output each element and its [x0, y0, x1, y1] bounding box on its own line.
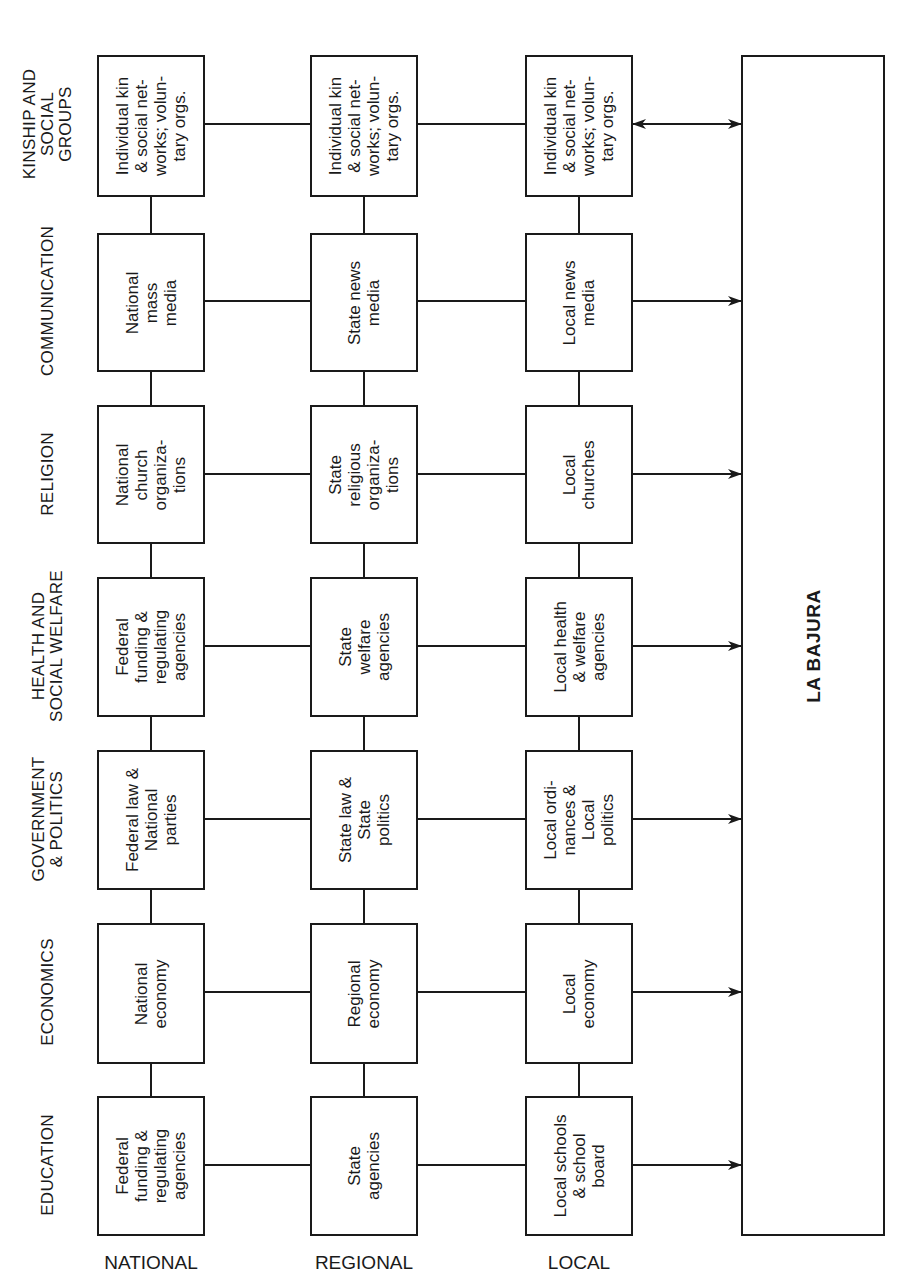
column-label-regional: REGIONAL — [315, 1252, 413, 1274]
node-communication-national: National mass media — [97, 233, 205, 372]
node-religion-national: National church organiza- tions — [97, 405, 205, 544]
node-economics-national: National economy — [97, 923, 205, 1064]
node-text: State welfare agencies — [336, 613, 393, 681]
node-text: Local ordi- nances & Local politics — [541, 780, 617, 859]
node-kinship-regional: Individual kin & social net- works; volu… — [310, 55, 418, 197]
node-text: Local schools & school board — [551, 1114, 608, 1217]
node-text: Regional economy — [345, 959, 383, 1028]
node-text: Federal law & National parties — [123, 768, 180, 872]
node-text: State news media — [345, 260, 383, 344]
node-religion-local: Local churches — [525, 405, 633, 544]
node-health-local: Local health & welfare agencies — [525, 577, 633, 717]
node-text: State religious organiza- tions — [326, 439, 402, 510]
row-label-religion: RELIGION — [39, 432, 57, 516]
column-label-local: LOCAL — [548, 1252, 610, 1274]
node-health-national: Federal funding & regulating agencies — [97, 577, 205, 717]
diagram-canvas: KINSHIP AND SOCIAL GROUPS COMMUNICATION … — [0, 0, 910, 1286]
node-text: Local news media — [560, 260, 598, 345]
node-text: National church organiza- tions — [113, 439, 189, 510]
node-text: Federal funding & regulating agencies — [113, 1129, 189, 1204]
node-education-national: Federal funding & regulating agencies — [97, 1096, 205, 1236]
node-communication-regional: State news media — [310, 233, 418, 372]
node-text: State law & State politics — [336, 777, 393, 863]
node-economics-local: Local economy — [525, 923, 633, 1064]
row-label-government: GOVERNMENT & POLITICS — [30, 757, 66, 882]
node-religion-regional: State religious organiza- tions — [310, 405, 418, 544]
node-text: State agencies — [345, 1132, 383, 1200]
column-label-national: NATIONAL — [104, 1252, 198, 1274]
target-node-la-bajura: LA BAJURA — [741, 55, 885, 1236]
node-economics-regional: Regional economy — [310, 923, 418, 1064]
node-text: Local health & welfare agencies — [551, 601, 608, 693]
node-text: National mass media — [123, 271, 180, 333]
node-health-regional: State welfare agencies — [310, 577, 418, 717]
node-kinship-national: Individual kin & social net- works; volu… — [97, 55, 205, 197]
node-government-regional: State law & State politics — [310, 750, 418, 890]
node-text: Individual kin & social net- works; volu… — [326, 76, 402, 176]
row-label-kinship: KINSHIP AND SOCIAL GROUPS — [21, 69, 75, 180]
target-label: LA BAJURA — [804, 589, 823, 703]
node-kinship-local: Individual kin & social net- works; volu… — [525, 55, 633, 197]
node-government-national: Federal law & National parties — [97, 750, 205, 890]
node-text: National economy — [132, 959, 170, 1028]
node-text: Individual kin & social net- works; volu… — [113, 76, 189, 176]
node-education-local: Local schools & school board — [525, 1096, 633, 1236]
row-label-economics: ECONOMICS — [39, 938, 57, 1046]
node-government-local: Local ordi- nances & Local politics — [525, 750, 633, 890]
node-text: Individual kin & social net- works; volu… — [541, 76, 617, 176]
row-label-education: EDUCATION — [39, 1114, 57, 1216]
node-communication-local: Local news media — [525, 233, 633, 372]
row-label-communication: COMMUNICATION — [39, 226, 57, 376]
node-text: Local economy — [560, 959, 598, 1028]
node-education-regional: State agencies — [310, 1096, 418, 1236]
node-text: Federal funding & regulating agencies — [113, 610, 189, 685]
row-label-health: HEALTH AND SOCIAL WELFARE — [30, 570, 66, 722]
node-text: Local churches — [560, 440, 598, 509]
